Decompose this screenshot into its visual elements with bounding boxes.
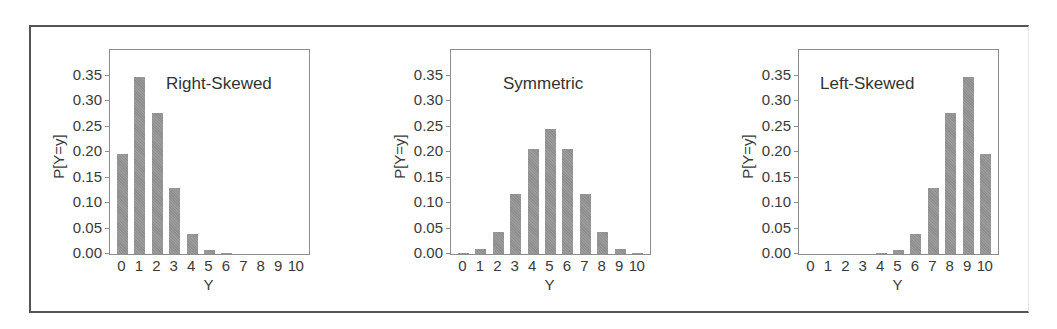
y-tick [446,253,451,254]
y-tick [105,126,110,127]
bar-5 [545,129,556,254]
bar-6 [221,253,232,254]
bar-10 [632,253,643,254]
chart-title: Left-Skewed [820,74,915,94]
y-tick [794,100,799,101]
bar-10 [980,154,991,254]
bar-3 [510,194,521,254]
bar-0 [458,253,469,254]
y-axis-title: P[Y=y] [739,117,756,197]
y-tick [794,228,799,229]
y-tick [446,228,451,229]
bar-9 [615,249,626,254]
y-tick [794,202,799,203]
y-tick-label: 0.00 [747,245,791,261]
bar-0 [117,154,128,254]
y-tick [446,151,451,152]
y-tick-label: 0.00 [399,245,443,261]
bar-4 [528,149,539,254]
chart-title: Right-Skewed [166,74,272,94]
y-tick-label: 0.30 [399,92,443,108]
bar-3 [169,188,180,254]
bar-9 [963,77,974,254]
y-tick [446,177,451,178]
y-tick-label: 0.30 [747,92,791,108]
y-tick-label: 0.00 [58,245,102,261]
bar-1 [475,249,486,254]
x-axis-title: Y [540,276,560,293]
bar-2 [493,232,504,254]
y-tick [105,151,110,152]
y-tick [794,253,799,254]
bar-7 [928,188,939,254]
y-tick-label: 0.05 [58,220,102,236]
y-tick [794,75,799,76]
y-tick [105,75,110,76]
y-tick [446,100,451,101]
bar-7 [580,194,591,254]
y-tick-label: 0.35 [747,67,791,83]
y-tick [105,202,110,203]
y-tick-label: 0.35 [399,67,443,83]
y-tick-label: 0.35 [58,67,102,83]
bar-2 [152,113,163,254]
y-axis-title: P[Y=y] [50,117,67,197]
y-tick-label: 0.30 [58,92,102,108]
y-tick [794,126,799,127]
x-axis-title: Y [199,276,219,293]
y-tick-label: 0.05 [399,220,443,236]
x-tick-label: 10 [627,258,647,274]
x-axis-title: Y [888,276,908,293]
bar-8 [945,113,956,254]
y-axis-title: P[Y=y] [391,117,408,197]
y-tick [105,253,110,254]
bar-4 [187,234,198,254]
y-tick [446,75,451,76]
bar-1 [134,77,145,254]
y-tick [105,100,110,101]
chart-title: Symmetric [503,74,583,94]
x-tick-label: 10 [286,258,306,274]
bar-6 [562,149,573,254]
bar-4 [876,253,887,254]
y-tick [105,228,110,229]
bar-5 [893,250,904,254]
bar-8 [597,232,608,254]
bar-5 [204,250,215,254]
y-tick [794,177,799,178]
y-tick-label: 0.05 [747,220,791,236]
x-tick-label: 10 [975,258,995,274]
y-tick [446,202,451,203]
y-tick [105,177,110,178]
y-tick [446,126,451,127]
y-tick [794,151,799,152]
bar-6 [910,234,921,254]
